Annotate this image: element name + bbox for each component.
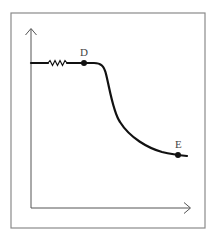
point-d-label: D [80, 46, 88, 58]
x-axis [31, 203, 191, 214]
data-curve [31, 61, 187, 157]
figure-frame [11, 13, 205, 228]
point-d-marker [81, 60, 87, 66]
y-axis [26, 29, 37, 209]
point-e-marker [175, 152, 181, 158]
point-e-label: E [175, 138, 182, 150]
curve-diagram: D E [0, 0, 216, 242]
axis-break-zigzag-icon [48, 61, 67, 66]
